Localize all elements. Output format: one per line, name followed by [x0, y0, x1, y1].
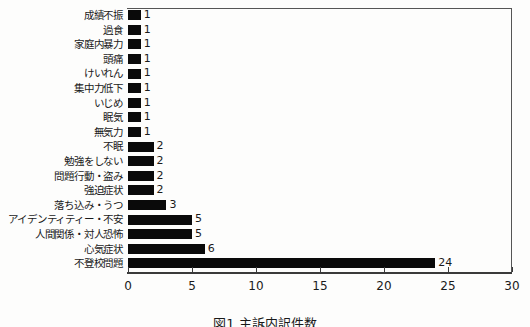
bar-value-label: 1 — [144, 8, 151, 23]
bar — [128, 185, 154, 195]
x-axis-tick — [192, 267, 193, 272]
bar-row: けいれん1 — [0, 66, 530, 81]
x-axis-tick — [512, 267, 513, 272]
x-axis-tick — [320, 267, 321, 272]
x-axis-tick-label: 30 — [504, 279, 519, 293]
bar — [128, 171, 154, 181]
bar-value-label: 1 — [144, 66, 151, 81]
bar — [128, 10, 141, 20]
bar — [128, 98, 141, 108]
bar-row: 家庭内暴力1 — [0, 37, 530, 52]
category-label: 集中力低下 — [0, 81, 123, 96]
x-axis-tick — [384, 267, 385, 272]
bar-value-label: 1 — [144, 110, 151, 125]
x-axis-tick — [128, 267, 129, 272]
bar-row: 眠気1 — [0, 110, 530, 125]
bar — [128, 200, 166, 210]
bar-value-label: 1 — [144, 23, 151, 38]
bar — [128, 39, 141, 49]
bar — [128, 83, 141, 93]
bar — [128, 112, 141, 122]
x-axis-tick-label: 25 — [440, 279, 455, 293]
category-label: けいれん — [0, 66, 123, 81]
bar-value-label: 3 — [169, 198, 176, 213]
category-label: 過食 — [0, 23, 123, 38]
bar-row: 勉強をしない2 — [0, 154, 530, 169]
bar — [128, 127, 141, 137]
bar-row: 問題行動・盗み2 — [0, 169, 530, 184]
bar-value-label: 1 — [144, 52, 151, 67]
x-axis: 051015202530 — [127, 272, 512, 274]
bar — [128, 142, 154, 152]
bar-value-label: 2 — [157, 154, 164, 169]
x-axis-tick-label: 0 — [124, 279, 132, 293]
category-label: 強迫症状 — [0, 183, 123, 198]
bar — [128, 229, 192, 239]
bar-value-label: 5 — [195, 212, 202, 227]
bar-value-label: 2 — [157, 169, 164, 184]
bar — [128, 244, 205, 254]
bar — [128, 54, 141, 64]
bar — [128, 25, 141, 35]
x-axis-tick-label: 5 — [188, 279, 196, 293]
category-label: 成績不振 — [0, 8, 123, 23]
bar-rows: 成績不振1過食1家庭内暴力1頭痛1けいれん1集中力低下1いじめ1眠気1無気力1不… — [0, 8, 530, 272]
bar-value-label: 2 — [157, 139, 164, 154]
bar-row: 頭痛1 — [0, 52, 530, 67]
category-label: 頭痛 — [0, 52, 123, 67]
bar-row: 落ち込み・うつ3 — [0, 198, 530, 213]
bar-row: 集中力低下1 — [0, 81, 530, 96]
bar-row: アイデンティティー・不安5 — [0, 212, 530, 227]
bar-value-label: 1 — [144, 96, 151, 111]
bar-row: 成績不振1 — [0, 8, 530, 23]
category-label: 落ち込み・うつ — [0, 198, 123, 213]
bar-value-label: 1 — [144, 37, 151, 52]
bar-row: 心気症状6 — [0, 242, 530, 257]
category-label: アイデンティティー・不安 — [0, 212, 123, 227]
x-axis-tick-label: 20 — [376, 279, 391, 293]
category-label: 眠気 — [0, 110, 123, 125]
category-label: 家庭内暴力 — [0, 37, 123, 52]
bar-row: 不眠2 — [0, 139, 530, 154]
category-label: 心気症状 — [0, 242, 123, 257]
bar-row: 不登校問題24 — [0, 256, 530, 271]
x-axis-tick-label: 10 — [248, 279, 263, 293]
bar — [128, 69, 141, 79]
x-axis-tick — [448, 267, 449, 272]
category-label: 勉強をしない — [0, 154, 123, 169]
bar — [128, 156, 154, 166]
category-label: 不眠 — [0, 139, 123, 154]
category-label: 人間関係・対人恐怖 — [0, 227, 123, 242]
bar-value-label: 6 — [208, 242, 215, 257]
figure-caption: 図1 主訴内訳件数 — [0, 313, 530, 327]
bar-row: 人間関係・対人恐怖5 — [0, 227, 530, 242]
category-label: 問題行動・盗み — [0, 169, 123, 184]
bar-value-label: 5 — [195, 227, 202, 242]
bar-value-label: 2 — [157, 183, 164, 198]
bar — [128, 258, 435, 268]
chart-figure: 成績不振1過食1家庭内暴力1頭痛1けいれん1集中力低下1いじめ1眠気1無気力1不… — [0, 0, 530, 327]
bar-value-label: 1 — [144, 81, 151, 96]
bar-row: 強迫症状2 — [0, 183, 530, 198]
bar-row: 無気力1 — [0, 125, 530, 140]
x-axis-tick — [256, 267, 257, 272]
category-label: 不登校問題 — [0, 256, 123, 271]
category-label: 無気力 — [0, 125, 123, 140]
x-axis-tick-label: 15 — [312, 279, 327, 293]
bar-row: 過食1 — [0, 23, 530, 38]
bar-row: いじめ1 — [0, 96, 530, 111]
bar-value-label: 1 — [144, 125, 151, 140]
category-label: いじめ — [0, 96, 123, 111]
bar-value-label: 24 — [438, 256, 452, 271]
bar — [128, 215, 192, 225]
